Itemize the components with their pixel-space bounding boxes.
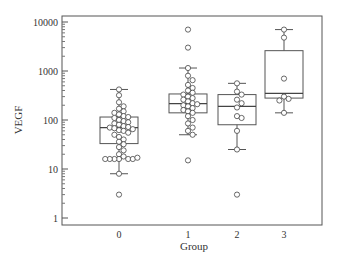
data-point — [116, 100, 121, 105]
box-plot: 110100100010000 0123 Group VEGF — [0, 0, 338, 263]
data-points — [103, 27, 292, 197]
data-point — [185, 121, 190, 126]
y-tick-label: 1000 — [38, 66, 58, 77]
iqr-box — [265, 51, 303, 98]
data-point — [185, 73, 190, 78]
y-tick-label: 100 — [43, 115, 58, 126]
y-axis: 110100100010000 — [33, 17, 68, 224]
data-point — [234, 97, 239, 102]
data-point — [185, 114, 190, 119]
data-point — [185, 45, 190, 50]
data-point — [185, 82, 190, 87]
data-point — [190, 110, 195, 115]
data-point — [239, 101, 244, 106]
x-tick-label: 1 — [186, 229, 191, 240]
boxes — [100, 30, 303, 174]
data-point — [121, 148, 126, 153]
x-axis: 0123 — [117, 229, 287, 240]
x-axis-title: Group — [180, 240, 209, 252]
data-point — [126, 130, 131, 135]
data-point — [234, 147, 239, 152]
data-point — [281, 27, 286, 32]
data-point — [116, 93, 121, 98]
data-point — [190, 95, 195, 100]
data-point — [103, 156, 108, 161]
data-point — [286, 96, 291, 101]
data-point — [185, 27, 190, 32]
y-tick-label: 10 — [48, 164, 58, 175]
data-point — [185, 65, 190, 70]
data-point — [190, 117, 195, 122]
data-point — [190, 125, 195, 130]
data-point — [130, 127, 135, 132]
data-point — [277, 98, 282, 103]
data-point — [190, 90, 195, 95]
data-point — [116, 144, 121, 149]
data-point — [185, 128, 190, 133]
data-point — [135, 155, 140, 160]
data-point — [239, 115, 244, 120]
x-tick-label: 2 — [235, 229, 240, 240]
y-tick-label: 10000 — [33, 17, 58, 28]
data-point — [116, 171, 121, 176]
data-point — [234, 89, 239, 94]
data-point — [281, 110, 286, 115]
data-point — [281, 35, 286, 40]
data-point — [116, 87, 121, 92]
data-point — [195, 102, 200, 107]
data-point — [234, 105, 239, 110]
data-point — [126, 114, 131, 119]
x-tick-label: 0 — [117, 229, 122, 240]
data-point — [190, 78, 195, 83]
x-tick-label: 3 — [282, 229, 287, 240]
data-point — [234, 192, 239, 197]
data-point — [234, 81, 239, 86]
data-point — [281, 76, 286, 81]
data-point — [234, 128, 239, 133]
data-point — [239, 92, 244, 97]
y-tick-label: 1 — [53, 213, 58, 224]
data-point — [116, 192, 121, 197]
data-point — [185, 158, 190, 163]
y-axis-title: VEGF — [12, 106, 24, 135]
data-point — [190, 132, 195, 137]
box-group-3 — [265, 30, 303, 113]
